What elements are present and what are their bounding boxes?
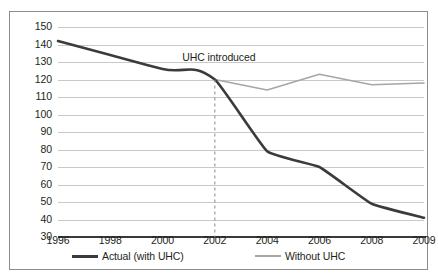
legend-item: Without UHC (255, 250, 345, 262)
plot-area: 15014013012011010090807060504030 UHC int… (10, 12, 429, 271)
x-axis-tick-label: 2006 (308, 234, 331, 246)
x-axis-tick-labels: 19961998200020022004200620082009 (10, 234, 429, 250)
legend-swatch-icon (255, 255, 281, 257)
x-axis-tick-label: 2004 (256, 234, 279, 246)
legend-label: Without UHC (285, 250, 345, 262)
annotation-layer: UHC introduced (10, 12, 429, 271)
chart-frame: 15014013012011010090807060504030 UHC int… (9, 11, 428, 270)
uhc-introduced-annotation-label: UHC introduced (182, 51, 255, 63)
chart-legend: Actual (with UHC)Without UHC (10, 250, 429, 268)
legend-item: Actual (with UHC) (72, 250, 184, 262)
legend-label: Actual (with UHC) (102, 250, 184, 262)
x-axis-tick-label: 2008 (360, 234, 383, 246)
x-axis-tick-label: 2009 (413, 234, 436, 246)
x-axis-tick-label: 1996 (47, 234, 70, 246)
x-axis-tick-label: 2000 (151, 234, 174, 246)
x-axis-tick-label: 1998 (99, 234, 122, 246)
legend-swatch-icon (72, 255, 98, 258)
x-axis-tick-label: 2002 (203, 234, 226, 246)
